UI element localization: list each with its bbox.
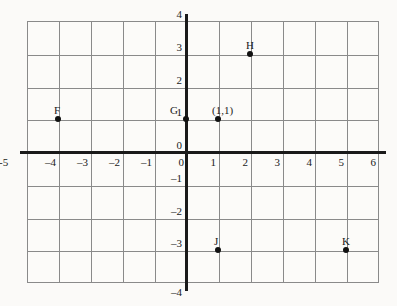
point-label-11: (1,1)	[212, 105, 233, 116]
x-tick-label: 1	[186, 157, 216, 168]
point-label-H: H	[246, 40, 254, 51]
y-tick-label: –3	[156, 238, 182, 249]
x-tick-label: –1	[122, 157, 152, 168]
y-tick-label: –1	[156, 173, 182, 184]
x-tick-label: –2	[90, 157, 120, 168]
data-point[interactable]	[247, 51, 253, 57]
gridline-horizontal	[28, 88, 378, 89]
y-tick-label: 1	[156, 107, 182, 118]
x-tick-label: -5	[0, 157, 29, 168]
x-tick-label: –3	[58, 157, 88, 168]
y-tick-label: 4	[156, 9, 182, 20]
x-axis	[20, 151, 386, 154]
x-tick-label: 2	[218, 157, 248, 168]
coordinate-plane: -5–4–3–2–1012345643210–1–2–3–4FG(1,1)HJK	[0, 0, 397, 306]
gridline-horizontal	[28, 251, 378, 252]
point-label-G: G	[170, 105, 178, 116]
gridline-horizontal	[28, 219, 378, 220]
x-tick-label: 3	[250, 157, 280, 168]
x-tick-label: –4	[26, 157, 56, 168]
y-tick-label: –4	[156, 287, 182, 298]
x-tick-label: 4	[282, 157, 312, 168]
gridline-horizontal	[28, 55, 378, 56]
point-label-J: J	[214, 236, 218, 247]
point-label-F: F	[54, 105, 60, 116]
gridline-horizontal	[28, 120, 378, 121]
gridline-horizontal	[28, 186, 378, 187]
y-tick-label: 3	[156, 42, 182, 53]
x-tick-label: 0	[154, 157, 184, 168]
x-tick-label: 5	[314, 157, 344, 168]
y-tick-label: –2	[156, 206, 182, 217]
x-tick-label: 6	[346, 157, 376, 168]
y-tick-label: 0	[156, 140, 182, 151]
y-tick-label: 2	[156, 75, 182, 86]
point-label-K: K	[342, 236, 350, 247]
